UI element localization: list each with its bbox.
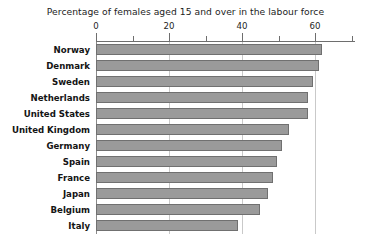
category-label-spain: Spain (0, 154, 90, 170)
x-tick-20 (169, 33, 170, 41)
category-label-denmark: Denmark (0, 58, 90, 74)
bar-row: United Kingdom (0, 122, 371, 138)
bar-netherlands (96, 92, 308, 103)
bar-italy (96, 220, 238, 231)
bar-row: Norway (0, 42, 371, 58)
category-label-united-states: United States (0, 106, 90, 122)
bar-row: Spain (0, 154, 371, 170)
bar-denmark (96, 60, 319, 71)
bar-france (96, 172, 273, 183)
bar-germany (96, 140, 282, 151)
x-minor-tick-30 (206, 36, 207, 41)
bar-united-states (96, 108, 308, 119)
bar-row: Netherlands (0, 90, 371, 106)
x-tick-label-20: 20 (164, 21, 175, 31)
x-tick-40 (242, 33, 243, 41)
category-label-netherlands: Netherlands (0, 90, 90, 106)
bar-row: Italy (0, 218, 371, 234)
bar-belgium (96, 204, 260, 215)
x-tick-0 (96, 33, 97, 41)
bar-spain (96, 156, 277, 167)
category-label-norway: Norway (0, 42, 90, 58)
chart-title: Percentage of females aged 15 and over i… (0, 6, 371, 17)
category-label-germany: Germany (0, 138, 90, 154)
category-label-france: France (0, 170, 90, 186)
x-minor-tick-10 (133, 36, 134, 41)
x-tick-60 (315, 33, 316, 41)
bar-japan (96, 188, 268, 199)
bar-united-kingdom (96, 124, 289, 135)
bar-norway (96, 44, 322, 55)
category-label-united-kingdom: United Kingdom (0, 122, 90, 138)
x-tick-label-0: 0 (93, 21, 98, 31)
category-label-italy: Italy (0, 218, 90, 234)
bar-chart: Percentage of females aged 15 and over i… (0, 0, 371, 236)
x-minor-tick-50 (279, 36, 280, 41)
category-label-belgium: Belgium (0, 202, 90, 218)
bar-sweden (96, 76, 313, 87)
bar-row: Japan (0, 186, 371, 202)
category-label-japan: Japan (0, 186, 90, 202)
x-tick-label-40: 40 (237, 21, 248, 31)
x-minor-tick-70 (352, 36, 353, 41)
bar-row: Denmark (0, 58, 371, 74)
bar-row: Belgium (0, 202, 371, 218)
bar-row: Germany (0, 138, 371, 154)
x-tick-label-60: 60 (310, 21, 321, 31)
bar-row: United States (0, 106, 371, 122)
bar-row: Sweden (0, 74, 371, 90)
bar-row: France (0, 170, 371, 186)
category-label-sweden: Sweden (0, 74, 90, 90)
